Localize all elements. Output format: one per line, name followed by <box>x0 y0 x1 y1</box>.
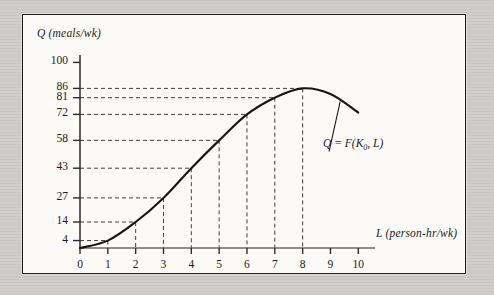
y-tick-label: 58 <box>28 132 68 144</box>
y-tick-label: 4 <box>28 233 68 245</box>
x-tick-label: 0 <box>69 258 91 270</box>
x-tick-label: 3 <box>152 258 174 270</box>
x-tick-label: 9 <box>319 258 341 270</box>
y-tick-label: 100 <box>28 54 68 66</box>
production-curve <box>80 88 358 248</box>
x-tick-label: 10 <box>347 258 369 270</box>
y-tick-label: 86 <box>28 80 68 92</box>
x-tick-label: 2 <box>125 258 147 270</box>
x-tick-label: 4 <box>180 258 202 270</box>
x-tick-label: 1 <box>97 258 119 270</box>
chart-svg <box>23 15 465 273</box>
y-tick-label: 14 <box>28 214 68 226</box>
figure-panel: Q (meals/wk) L (person-hr/wk) Q = F(K0, … <box>22 14 466 274</box>
x-tick-label: 8 <box>292 258 314 270</box>
x-tick-label: 6 <box>236 258 258 270</box>
plot-area <box>23 15 465 273</box>
figure-page: Q (meals/wk) L (person-hr/wk) Q = F(K0, … <box>0 0 494 295</box>
x-tick-label: 5 <box>208 258 230 270</box>
x-tick-label: 7 <box>264 258 286 270</box>
y-tick-label: 43 <box>28 160 68 172</box>
axis-group <box>73 55 375 254</box>
y-tick-label: 27 <box>28 190 68 202</box>
y-tick-label: 72 <box>28 106 68 118</box>
